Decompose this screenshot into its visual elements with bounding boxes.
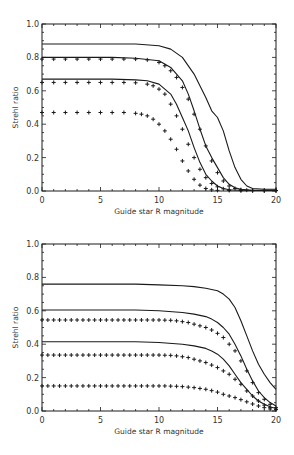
plus-marker	[169, 102, 173, 106]
plus-marker	[204, 361, 208, 365]
plus-marker	[192, 357, 196, 361]
plus-marker	[262, 397, 266, 401]
plus-marker	[221, 392, 225, 396]
x-tick-label: 0	[39, 416, 44, 425]
plus-marker	[46, 384, 50, 388]
plus-marker	[204, 387, 208, 391]
plus-marker	[180, 127, 184, 131]
plus-marker	[134, 81, 138, 85]
plus-marker	[122, 318, 126, 322]
plus-marker	[69, 318, 73, 322]
x-tick-label: 20	[271, 416, 281, 425]
plus-marker	[69, 384, 73, 388]
plus-marker	[163, 318, 167, 322]
y-axis-label: Strehl ratio	[11, 86, 20, 128]
plus-marker	[93, 353, 97, 357]
series-markers	[40, 318, 278, 410]
x-axis-label: Guide star R magnitude	[114, 207, 204, 216]
plus-marker	[198, 324, 202, 328]
plus-marker	[122, 353, 126, 357]
plus-marker	[175, 114, 179, 118]
y-tick-label: 1.0	[26, 240, 39, 249]
plus-marker	[63, 384, 67, 388]
plus-marker	[216, 171, 220, 175]
chart-bottom: 051015200.00.20.40.60.81.0Guide star R m…	[11, 240, 281, 436]
plus-marker	[58, 318, 62, 322]
plus-marker	[163, 384, 167, 388]
x-tick-label: 5	[98, 416, 103, 425]
plus-marker	[128, 353, 132, 357]
plus-marker	[151, 384, 155, 388]
plus-marker	[186, 142, 190, 146]
plus-marker	[58, 353, 62, 357]
plus-marker	[87, 80, 91, 84]
plus-marker	[81, 318, 85, 322]
plus-marker	[75, 80, 79, 84]
plus-marker	[99, 353, 103, 357]
plus-marker	[99, 80, 103, 84]
plus-marker	[99, 384, 103, 388]
plus-marker	[145, 318, 149, 322]
plus-marker	[198, 183, 202, 187]
plus-marker	[198, 359, 202, 363]
plus-marker	[145, 353, 149, 357]
plus-marker	[151, 117, 155, 121]
y-tick-label: 0.8	[26, 273, 39, 282]
x-tick-label: 20	[271, 196, 281, 205]
plus-marker	[134, 318, 138, 322]
plus-marker	[110, 111, 114, 115]
plus-marker	[186, 385, 190, 389]
plus-marker	[151, 84, 155, 88]
plus-marker	[134, 111, 138, 115]
plus-marker	[139, 384, 143, 388]
plus-marker	[116, 353, 120, 357]
plus-marker	[239, 382, 243, 386]
plus-marker	[75, 353, 79, 357]
y-tick-label: 0.8	[26, 53, 39, 62]
y-tick-label: 0.4	[26, 340, 39, 349]
plus-marker	[58, 384, 62, 388]
plus-marker	[180, 85, 184, 89]
plus-marker	[216, 188, 220, 192]
plus-marker	[233, 349, 237, 353]
plus-marker	[145, 384, 149, 388]
plus-marker	[139, 353, 143, 357]
plus-marker	[52, 80, 56, 84]
plot-frame	[42, 24, 276, 191]
plus-marker	[99, 111, 103, 115]
plus-marker	[186, 169, 190, 173]
plus-marker	[216, 390, 220, 394]
plus-marker	[175, 384, 179, 388]
x-axis-label: Guide star R magnitude	[114, 427, 204, 436]
x-tick-label: 15	[212, 196, 222, 205]
plus-marker	[52, 384, 56, 388]
plus-marker	[210, 328, 214, 332]
plus-marker	[87, 111, 91, 115]
plus-marker	[227, 372, 231, 376]
plus-marker	[204, 186, 208, 190]
plus-marker	[233, 377, 237, 381]
x-tick-label: 0	[39, 196, 44, 205]
y-tick-label: 0.6	[26, 87, 39, 96]
plus-marker	[210, 363, 214, 367]
plus-marker	[157, 122, 161, 126]
y-tick-label: 0.0	[26, 187, 39, 196]
plus-marker	[104, 353, 108, 357]
plus-marker	[151, 353, 155, 357]
plus-marker	[163, 353, 167, 357]
y-tick-label: 0.6	[26, 307, 39, 316]
y-axis-label: Strehl ratio	[11, 306, 20, 348]
plus-marker	[180, 385, 184, 389]
plus-marker	[81, 384, 85, 388]
plus-marker	[245, 400, 249, 404]
plus-marker	[157, 87, 161, 91]
plus-marker	[256, 404, 260, 408]
plus-marker	[198, 167, 202, 171]
plus-marker	[52, 111, 56, 115]
x-tick-label: 10	[154, 196, 164, 205]
plus-marker	[128, 318, 132, 322]
plus-marker	[87, 318, 91, 322]
plus-marker	[216, 331, 220, 335]
plus-marker	[134, 384, 138, 388]
plus-marker	[134, 353, 138, 357]
